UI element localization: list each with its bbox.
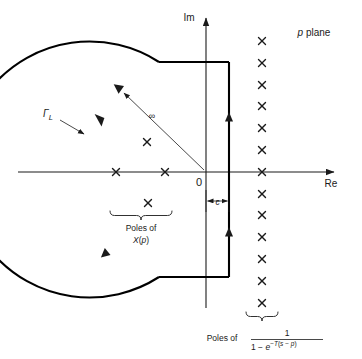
contour-label-group: ΓL	[43, 108, 84, 134]
pole-marker	[259, 256, 266, 263]
offset-c-dimension: c	[206, 190, 229, 212]
pole-marker	[145, 200, 152, 207]
contour-gamma-l	[0, 42, 229, 298]
radius-infinity-annotation: ∞	[124, 93, 204, 170]
figure-canvas: ΓL ∞ Im Re 0 p plane c	[0, 0, 362, 359]
contour-arc-infinite-radius	[0, 42, 159, 298]
poles-of-denominator-caption-text: Poles of	[207, 333, 238, 343]
pole-marker	[259, 125, 266, 132]
contour-arrow-up-upper	[225, 112, 233, 122]
pole-marker	[144, 139, 151, 146]
poles-of-x-brace	[110, 211, 172, 220]
poles-of-x-caption-line1: Poles of	[126, 223, 157, 233]
pole-marker	[259, 212, 266, 219]
poles-of-denominator-caption: Poles of 1 1 − e−T(s − p)	[207, 328, 323, 352]
contour-arrow-up-lower	[225, 227, 233, 237]
pole-marker	[259, 234, 266, 241]
contour-arrow-arc-lower	[101, 248, 111, 258]
contour-label-leader-line	[60, 120, 84, 134]
contour-label-gamma: ΓL	[43, 108, 53, 122]
pole-marker	[259, 278, 266, 285]
fraction-numerator: 1	[285, 328, 290, 338]
fraction-denominator: 1 − e−T(s − p)	[251, 340, 297, 352]
p-plane-diagram: ΓL ∞ Im Re 0 p plane c	[0, 0, 362, 359]
real-axis-label: Re	[325, 178, 338, 189]
pole-marker	[259, 300, 266, 307]
poles-of-denominator-brace	[246, 312, 278, 321]
origin-label: 0	[196, 176, 202, 188]
radius-leader-line	[124, 93, 204, 170]
poles-of-x-caption-line2: X(p)	[132, 235, 149, 245]
pole-marker	[259, 191, 266, 198]
contour-arrow-arc-mid	[95, 114, 105, 127]
pole-marker	[259, 82, 266, 89]
pole-marker	[259, 103, 266, 110]
plane-title-label: p plane	[297, 27, 331, 38]
offset-c-label: c	[215, 197, 220, 207]
pole-marker	[259, 147, 266, 154]
pole-marker	[259, 60, 266, 67]
pole-marker	[259, 38, 266, 45]
radius-infinity-label: ∞	[149, 111, 155, 121]
imaginary-axis-label: Im	[183, 12, 194, 23]
contour-arrow-arc-upper	[114, 84, 124, 94]
